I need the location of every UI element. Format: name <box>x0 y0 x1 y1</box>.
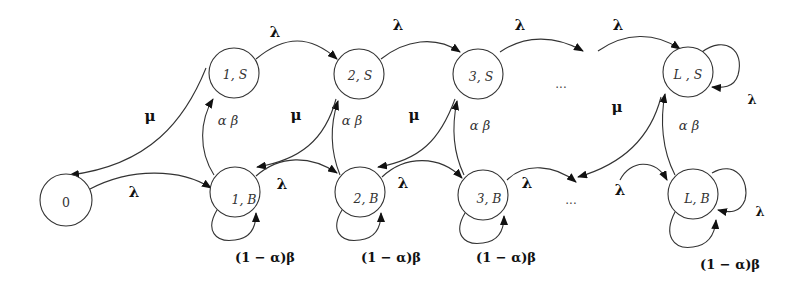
label-mu-LS-ellipsis: μ <box>612 98 623 116</box>
node-1S-label: 1, S <box>223 67 247 82</box>
node-2S-label: 2, S <box>347 68 372 83</box>
label-lambda-ellipsis-LS: λ <box>613 16 624 34</box>
label-alphabeta-1B-1S: α β <box>218 113 238 128</box>
label-mu-1S-0: μ <box>145 107 156 125</box>
edge-1S-to-0 <box>70 68 206 175</box>
label-alphabeta-3B-3S: α β <box>470 118 490 133</box>
edge-3B-to-ellipsis <box>507 168 576 182</box>
label-alphabeta-LB-LS: α β <box>679 118 699 133</box>
markov-chain-diagram: 0 1, S 2, S 3, S L , S 1, B 2, B 3, B L,… <box>0 0 803 289</box>
label-lambda-3B-ellipsis: λ <box>522 174 533 192</box>
label-lambda-1S-2S: λ <box>270 23 281 41</box>
node-0: 0 <box>40 174 92 226</box>
node-3S: 3, S <box>453 49 503 99</box>
node-LB-label: L, B <box>683 191 709 206</box>
node-1B-label: 1, B <box>231 192 256 207</box>
label-lambda-LB-loop: λ <box>755 204 764 219</box>
node-0-label: 0 <box>62 195 70 210</box>
edge-ellipsis-to-LS <box>598 36 680 51</box>
ellipsis-top: ... <box>555 77 566 91</box>
edge-1S-to-2S <box>256 41 337 59</box>
node-LS-label: L , S <box>673 67 703 82</box>
ellipsis-bottom: ... <box>565 193 576 207</box>
label-1malphabeta-1B: (1 − α)β <box>235 250 295 265</box>
edge-2S-to-3S <box>381 42 460 59</box>
edge-1B-to-1S <box>203 99 214 175</box>
label-mu-3S-2B: μ <box>409 106 420 124</box>
node-2B-label: 2, B <box>352 191 378 206</box>
node-3B-label: 3, B <box>476 191 501 206</box>
label-lambda-ellipsis-LB: λ <box>615 181 626 199</box>
node-3S-label: 3, S <box>469 69 493 84</box>
node-1B: 1, B <box>210 167 260 217</box>
edge-3B-to-3S <box>454 101 464 175</box>
node-LS: L , S <box>663 47 713 97</box>
edges <box>70 36 746 247</box>
label-1malphabeta-LB: (1 − α)β <box>700 257 760 272</box>
edge-3S-to-ellipsis <box>500 39 583 52</box>
label-lambda-1B-2B: λ <box>277 175 288 193</box>
edge-LB-to-LS <box>662 94 675 175</box>
label-lambda-2B-3B: λ <box>398 174 409 192</box>
label-1malphabeta-3B: (1 − α)β <box>476 250 536 265</box>
node-2B: 2, B <box>335 167 385 217</box>
edge-ellipsis-to-LB <box>620 164 667 180</box>
edge-1B-to-2B <box>256 160 337 176</box>
label-lambda-2S-3S: λ <box>393 16 404 34</box>
node-LB: L, B <box>668 169 718 219</box>
label-1malphabeta-2B: (1 − α)β <box>361 250 421 265</box>
node-1S: 1, S <box>209 48 259 98</box>
edge-0-to-1B <box>90 173 211 189</box>
label-lambda-0-1B: λ <box>129 183 140 201</box>
label-alphabeta-2B-2S: α β <box>342 113 362 128</box>
node-3B: 3, B <box>458 170 508 220</box>
label-mu-2S-1B: μ <box>291 106 302 124</box>
label-lambda-3S-ellipsis: λ <box>515 16 526 34</box>
edge-2B-to-2S <box>332 101 340 175</box>
label-lambda-LS-loop: λ <box>747 92 756 107</box>
node-2S: 2, S <box>334 49 384 99</box>
